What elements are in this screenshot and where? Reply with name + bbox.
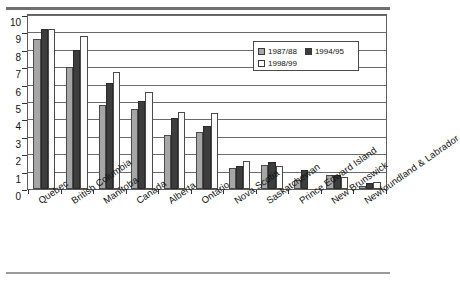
bar bbox=[178, 112, 185, 189]
bar-group bbox=[61, 15, 94, 189]
legend-swatch-icon-1998-99 bbox=[258, 60, 265, 67]
y-tick-label: 5 bbox=[15, 105, 21, 115]
bar bbox=[48, 29, 55, 189]
bar-group bbox=[191, 15, 224, 189]
bar bbox=[138, 101, 145, 189]
y-tick-label: 6 bbox=[15, 88, 21, 98]
bar-group bbox=[28, 15, 61, 189]
y-tick-label: 2 bbox=[15, 157, 21, 167]
bar bbox=[80, 36, 87, 189]
bar bbox=[203, 126, 210, 189]
bar bbox=[33, 39, 40, 189]
bar bbox=[236, 166, 243, 189]
bar bbox=[41, 29, 48, 189]
legend-item-1998-99: 1998/99 bbox=[258, 59, 297, 68]
bar bbox=[211, 113, 218, 189]
x-axis-labels: QuebecBritish ColumbiaManitobaCanadaAlbe… bbox=[0, 190, 396, 280]
y-tick-label: 3 bbox=[15, 140, 21, 150]
bar bbox=[73, 50, 80, 189]
bar bbox=[366, 183, 373, 189]
bar bbox=[171, 118, 178, 189]
bar-group bbox=[223, 15, 256, 189]
y-tick-label: 1 bbox=[15, 175, 21, 185]
legend-label-1987-88: 1987/88 bbox=[268, 47, 297, 56]
top-rule bbox=[6, 7, 390, 10]
legend-row-1: 1987/88 1994/95 bbox=[258, 45, 354, 57]
bar bbox=[66, 67, 73, 189]
y-tick-label: 8 bbox=[15, 53, 21, 63]
legend-swatch-icon-1994-95 bbox=[305, 48, 312, 55]
chart-legend: 1987/88 1994/95 1998/99 bbox=[253, 41, 359, 71]
legend-label-1998-99: 1998/99 bbox=[268, 59, 297, 68]
legend-item-1987-88: 1987/88 bbox=[258, 47, 297, 56]
y-tick-label: 9 bbox=[15, 35, 21, 45]
bar bbox=[145, 92, 152, 189]
legend-row-2: 1998/99 bbox=[258, 57, 354, 69]
y-axis: 012345678910 bbox=[0, 8, 27, 196]
bar bbox=[196, 132, 203, 189]
y-tick-label: 4 bbox=[15, 122, 21, 132]
bar-group bbox=[158, 15, 191, 189]
legend-swatch-icon-1987-88 bbox=[258, 48, 265, 55]
y-tick-label: 10 bbox=[10, 18, 21, 28]
legend-item-1994-95: 1994/95 bbox=[305, 47, 344, 56]
legend-label-1994-95: 1994/95 bbox=[315, 47, 344, 56]
y-tick-label: 7 bbox=[15, 70, 21, 80]
